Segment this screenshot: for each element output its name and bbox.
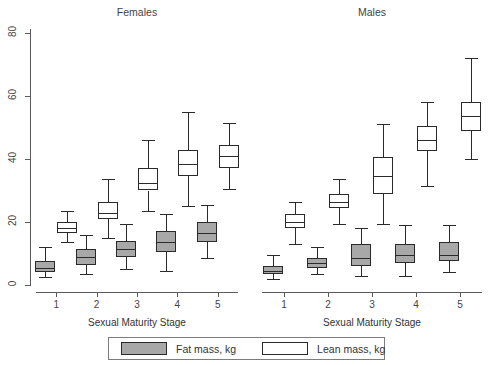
- whisker-lower: [86, 265, 87, 274]
- median-line: [76, 257, 96, 258]
- x-axis-tick-label: 5: [445, 299, 475, 310]
- x-axis-tick: [416, 292, 417, 297]
- whisker-lower: [148, 191, 149, 211]
- median-line: [439, 255, 459, 256]
- legend-swatch-fat-mass: [121, 342, 167, 355]
- median-line: [417, 140, 437, 141]
- whisker-cap-upper: [201, 205, 214, 206]
- y-axis-tick-label: 60: [7, 85, 18, 105]
- whisker-cap-lower: [201, 258, 214, 259]
- legend: Fat mass, kg Lean mass, kg: [108, 337, 385, 360]
- median-line: [395, 255, 415, 256]
- median-line: [116, 249, 136, 250]
- x-axis-tick: [137, 292, 138, 297]
- whisker-cap-upper: [333, 179, 346, 180]
- whisker-cap-lower: [421, 186, 434, 187]
- whisker-cap-lower: [355, 276, 368, 277]
- y-axis-tick: [25, 159, 30, 160]
- panel-title-males: Males: [358, 6, 386, 18]
- whisker-cap-lower: [160, 271, 173, 272]
- y-axis-line: [30, 29, 31, 286]
- whisker-cap-lower: [182, 206, 195, 207]
- whisker-cap-lower: [443, 272, 456, 273]
- x-axis-tick: [97, 292, 98, 297]
- whisker-cap-upper: [39, 247, 52, 248]
- whisker-cap-lower: [61, 242, 74, 243]
- x-axis-tick-label: 4: [162, 299, 192, 310]
- median-line: [461, 116, 481, 117]
- whisker-cap-lower: [102, 238, 115, 239]
- y-axis-tick: [25, 33, 30, 34]
- median-line: [156, 242, 176, 243]
- whisker-cap-lower: [333, 224, 346, 225]
- whisker-upper: [45, 247, 46, 261]
- x-axis-tick: [56, 292, 57, 297]
- whisker-cap-upper: [160, 214, 173, 215]
- whisker-upper: [108, 179, 109, 201]
- whisker-cap-upper: [355, 228, 368, 229]
- whisker-cap-upper: [223, 123, 236, 124]
- whisker-cap-lower: [377, 224, 390, 225]
- boxplot-chart: Females Males 020406080 12345 12345 Sexu…: [0, 0, 492, 365]
- box-fat-mass: [439, 242, 459, 261]
- median-line: [373, 176, 393, 177]
- whisker-lower: [383, 194, 384, 224]
- whisker-upper: [471, 58, 472, 102]
- legend-item-lean-mass: Lean mass, kg: [262, 342, 385, 355]
- whisker-lower: [471, 131, 472, 159]
- whisker-cap-lower: [80, 274, 93, 275]
- whisker-lower: [229, 168, 230, 188]
- whisker-upper: [449, 225, 450, 242]
- whisker-cap-lower: [399, 276, 412, 277]
- whisker-cap-lower: [39, 277, 52, 278]
- x-axis-tick-label: 2: [82, 299, 112, 310]
- x-axis-title-males: Sexual Maturity Stage: [323, 317, 421, 328]
- whisker-cap-upper: [102, 179, 115, 180]
- whisker-cap-upper: [443, 225, 456, 226]
- whisker-cap-upper: [311, 247, 324, 248]
- whisker-cap-upper: [61, 211, 74, 212]
- median-line: [285, 222, 305, 223]
- whisker-upper: [383, 124, 384, 157]
- x-axis-tick: [460, 292, 461, 297]
- whisker-cap-upper: [80, 235, 93, 236]
- box-lean-mass: [138, 168, 158, 190]
- whisker-lower: [188, 176, 189, 206]
- whisker-upper: [67, 211, 68, 222]
- whisker-cap-upper: [465, 58, 478, 59]
- whisker-cap-upper: [120, 224, 133, 225]
- median-line: [35, 268, 55, 269]
- y-axis-tick-label: 20: [7, 211, 18, 231]
- median-line: [219, 156, 239, 157]
- x-axis-tick-label: 1: [41, 299, 71, 310]
- whisker-upper: [273, 255, 274, 266]
- whisker-cap-upper: [421, 102, 434, 103]
- whisker-cap-upper: [289, 202, 302, 203]
- whisker-upper: [317, 247, 318, 258]
- whisker-cap-lower: [267, 279, 280, 280]
- whisker-lower: [361, 266, 362, 275]
- median-line: [197, 233, 217, 234]
- x-axis-title-females: Sexual Maturity Stage: [88, 317, 186, 328]
- whisker-lower: [67, 233, 68, 242]
- whisker-upper: [166, 214, 167, 231]
- whisker-cap-upper: [267, 255, 280, 256]
- whisker-cap-lower: [120, 269, 133, 270]
- whisker-cap-lower: [142, 211, 155, 212]
- legend-label-lean-mass: Lean mass, kg: [317, 343, 385, 355]
- whisker-lower: [295, 228, 296, 244]
- whisker-cap-upper: [182, 112, 195, 113]
- whisker-upper: [148, 140, 149, 168]
- whisker-cap-lower: [289, 244, 302, 245]
- whisker-lower: [108, 219, 109, 238]
- whisker-upper: [86, 235, 87, 249]
- median-line: [307, 263, 327, 264]
- legend-label-fat-mass: Fat mass, kg: [176, 343, 236, 355]
- whisker-cap-upper: [142, 140, 155, 141]
- whisker-cap-upper: [399, 225, 412, 226]
- whisker-upper: [427, 102, 428, 126]
- y-axis-tick-label: 40: [7, 148, 18, 168]
- x-axis-tick: [328, 292, 329, 297]
- x-axis-tick-label: 3: [357, 299, 387, 310]
- whisker-upper: [339, 179, 340, 193]
